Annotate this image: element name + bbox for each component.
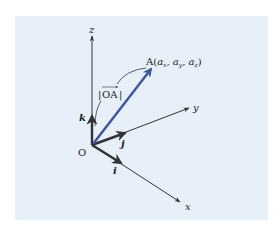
unit-vector-j-label: j (119, 138, 125, 149)
unit-vector-i (92, 145, 121, 163)
origin-label: O (78, 147, 86, 158)
z-axis-label: z (88, 24, 95, 35)
x-axis-label: x (185, 201, 191, 212)
unit-vector-i-label: i (113, 165, 117, 176)
magnitude-label: | OA | (98, 87, 122, 101)
point-a-suffix: ) (198, 56, 202, 67)
magnitude-bar-right: | (119, 89, 122, 101)
y-axis-label: y (192, 102, 199, 113)
component-a-z: , a (182, 56, 194, 67)
magnitude-connector-to-origin (95, 101, 101, 126)
vector-diagram: z y x k j i O | OA | A(ax, ay, az) (0, 0, 280, 236)
magnitude-bar-left: | (98, 89, 101, 101)
position-vector-oa (93, 69, 151, 144)
component-a-y: , a (166, 56, 178, 67)
unit-vector-k-label: k (79, 112, 86, 123)
magnitude-label-text: OA (102, 89, 118, 100)
point-a-prefix: A( (145, 56, 157, 67)
point-a-label: A(ax, ay, az) (145, 56, 202, 69)
